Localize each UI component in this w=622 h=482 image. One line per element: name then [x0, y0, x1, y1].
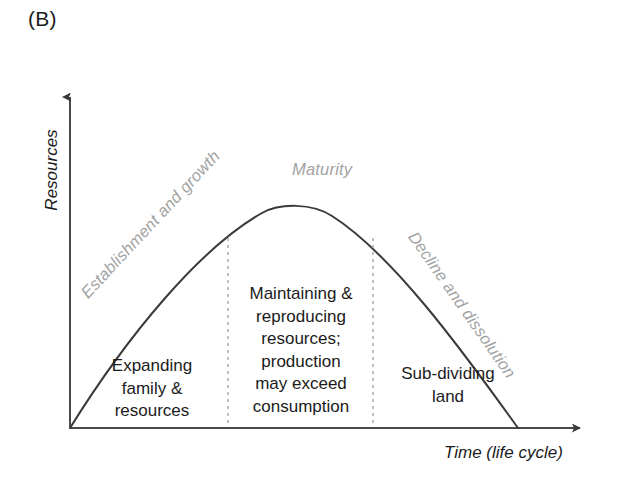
text-line: family &	[84, 378, 220, 401]
text-line: consumption	[236, 396, 366, 419]
phase-label-maturity: Maturity	[292, 160, 352, 179]
text-line: resources	[84, 400, 220, 423]
text-line: production	[236, 351, 366, 374]
text-line: land	[382, 386, 514, 409]
x-axis-title: Time (life cycle)	[444, 443, 563, 463]
text-line: Maintaining &	[236, 283, 366, 306]
y-axis-title: Resources	[42, 110, 62, 230]
text-line: Expanding	[84, 355, 220, 378]
region-text-expanding: Expandingfamily &resources	[84, 355, 220, 423]
text-line: reproducing	[236, 306, 366, 329]
region-text-maintaining: Maintaining &reproducingresources;produc…	[236, 283, 366, 419]
text-line: may exceed	[236, 373, 366, 396]
text-line: resources;	[236, 328, 366, 351]
diagram-root: (B) Resources Time (life cycle) Establis…	[0, 0, 622, 482]
text-line: Sub-dividing	[382, 363, 514, 386]
region-text-subdividing: Sub-dividingland	[382, 363, 514, 408]
